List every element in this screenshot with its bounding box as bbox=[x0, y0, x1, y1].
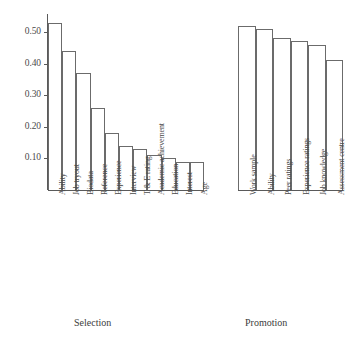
category-label: Education bbox=[172, 164, 180, 195]
y-axis-tick-label-text: 0.20 bbox=[13, 122, 41, 132]
bar bbox=[256, 29, 274, 190]
category-label: T & E rating bbox=[144, 156, 152, 195]
category-label: Work sample bbox=[250, 154, 258, 195]
plot-area: 0.100.200.300.400.50 AbilityJob tryoutBi… bbox=[0, 0, 346, 343]
chart-figure: 0.100.200.300.400.50 AbilityJob tryoutBi… bbox=[0, 0, 346, 343]
category-label: Ability bbox=[59, 173, 67, 195]
category-label: Peer ratings bbox=[285, 159, 293, 195]
category-label: Job tryout bbox=[73, 164, 81, 195]
category-label: Assessment centre bbox=[338, 138, 346, 195]
category-label: Experience bbox=[115, 161, 123, 195]
y-axis-tick-label: 0.30 bbox=[10, 90, 41, 100]
category-label: Ability bbox=[268, 173, 276, 195]
y-axis-tick-label-text: 0.40 bbox=[13, 59, 41, 69]
category-label: Academic achievement bbox=[158, 123, 166, 195]
category-label: Experience ratings bbox=[303, 138, 311, 195]
bar bbox=[48, 23, 62, 190]
category-label: Reference bbox=[101, 164, 109, 195]
y-axis-tick-label: 0.40 bbox=[10, 59, 41, 69]
category-label: Interview bbox=[130, 166, 138, 195]
category-label: Job knowledge bbox=[320, 149, 328, 195]
y-axis-tick-label-text: 0.30 bbox=[13, 90, 41, 100]
y-axis-tick-label: 0.20 bbox=[10, 122, 41, 132]
group-caption-promotion: Promotion bbox=[245, 318, 287, 328]
group-caption-selection: Selection bbox=[74, 318, 111, 328]
y-axis-tick-label: 0.10 bbox=[10, 153, 41, 163]
category-label: Interest bbox=[186, 172, 194, 195]
category-label: Biodata bbox=[87, 171, 95, 195]
y-axis-tick-label: 0.50 bbox=[10, 27, 41, 37]
y-axis-tick-label-text: 0.10 bbox=[13, 153, 41, 163]
y-axis-tick-label-text: 0.50 bbox=[13, 27, 41, 37]
category-label: Age bbox=[201, 182, 209, 195]
